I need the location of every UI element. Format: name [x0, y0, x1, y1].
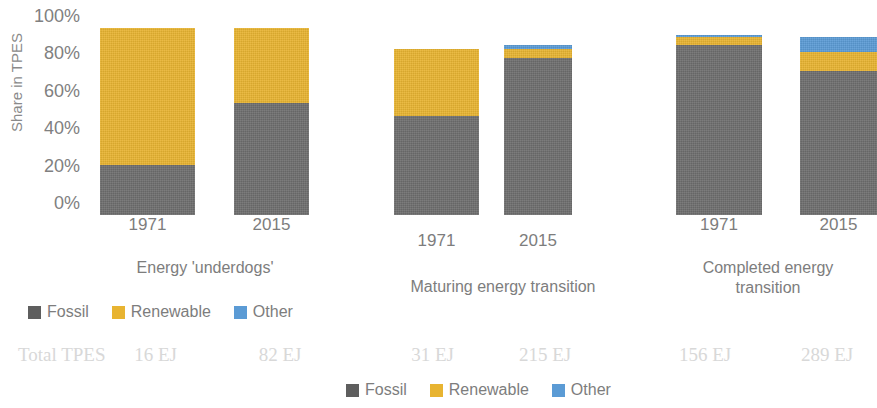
legend-item-other[interactable]: Other — [552, 381, 611, 399]
square-swatch-icon — [430, 384, 443, 397]
square-swatch-icon — [112, 306, 125, 319]
category-label-group1-1971: 1971 — [100, 215, 195, 235]
group-label-completed-energy-transition: Completed energy transition — [668, 258, 868, 298]
segment-renewable — [234, 28, 309, 103]
square-swatch-icon — [346, 384, 359, 397]
segment-fossil — [394, 116, 479, 215]
bar-group2-2015[interactable] — [504, 45, 572, 215]
legend-item-renewable[interactable]: Renewable — [430, 381, 529, 399]
total-tpes-group2-1971: 31 EJ — [390, 344, 475, 366]
stacked-bar-chart: Share in TPES 100% 80% 60% 40% 20% 0% — [0, 0, 877, 408]
bar-group3-1971[interactable] — [676, 35, 762, 215]
total-tpes-group3-1971: 156 EJ — [660, 344, 750, 366]
group-label-maturing-energy-transition: Maturing energy transition — [378, 277, 628, 297]
legend-label-renewable: Renewable — [131, 303, 211, 321]
legend-label-renewable: Renewable — [449, 381, 529, 399]
category-label-group1-2015: 2015 — [234, 215, 309, 235]
segment-renewable — [676, 37, 762, 44]
totals-row-label: Total TPES — [18, 344, 106, 366]
bar-group3-2015[interactable] — [800, 37, 877, 215]
category-label-group3-2015: 2015 — [800, 215, 877, 235]
segment-fossil — [504, 58, 572, 215]
segment-other — [800, 37, 877, 52]
legend-label-other: Other — [571, 381, 611, 399]
segment-fossil — [800, 71, 877, 215]
category-label-group2-1971: 1971 — [394, 231, 479, 251]
legend-top: Fossil Renewable Other — [28, 303, 307, 321]
square-swatch-icon — [28, 306, 41, 319]
segment-renewable — [394, 49, 479, 116]
segment-renewable — [800, 52, 877, 71]
bar-group2-1971[interactable] — [394, 49, 479, 215]
legend-bottom: Fossil Renewable Other — [346, 381, 625, 399]
square-swatch-icon — [552, 384, 565, 397]
square-swatch-icon — [234, 306, 247, 319]
category-label-group2-2015: 2015 — [504, 231, 572, 251]
segment-renewable — [100, 28, 195, 165]
legend-item-fossil[interactable]: Fossil — [28, 303, 89, 321]
legend-item-renewable[interactable]: Renewable — [112, 303, 211, 321]
legend-label-fossil: Fossil — [365, 381, 407, 399]
group-label-energy-underdogs: Energy 'underdogs' — [95, 258, 315, 278]
legend-label-other: Other — [253, 303, 293, 321]
segment-fossil — [676, 45, 762, 215]
legend-item-fossil[interactable]: Fossil — [346, 381, 407, 399]
segment-renewable — [504, 49, 572, 58]
total-tpes-group1-2015: 82 EJ — [240, 344, 320, 366]
category-label-group3-1971: 1971 — [676, 215, 762, 235]
segment-fossil — [234, 103, 309, 215]
bar-group1-2015[interactable] — [234, 28, 309, 215]
total-tpes-group2-2015: 215 EJ — [500, 344, 590, 366]
total-tpes-group3-2015: 289 EJ — [782, 344, 872, 366]
bar-group1-1971[interactable] — [100, 28, 195, 215]
legend-item-other[interactable]: Other — [234, 303, 293, 321]
totals-row: Total TPES 16 EJ 82 EJ 31 EJ 215 EJ 156 … — [0, 344, 877, 370]
legend-label-fossil: Fossil — [47, 303, 89, 321]
segment-fossil — [100, 165, 195, 215]
plot-area — [0, 0, 877, 215]
total-tpes-group1-1971: 16 EJ — [108, 344, 203, 366]
